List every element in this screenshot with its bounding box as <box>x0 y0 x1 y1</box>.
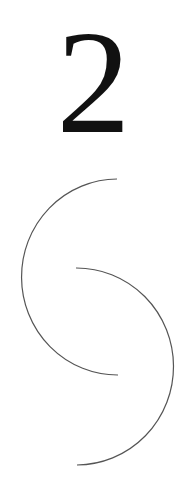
upper-left-arc <box>22 179 118 375</box>
lower-right-arc <box>76 268 174 465</box>
arc-figure <box>0 0 187 493</box>
